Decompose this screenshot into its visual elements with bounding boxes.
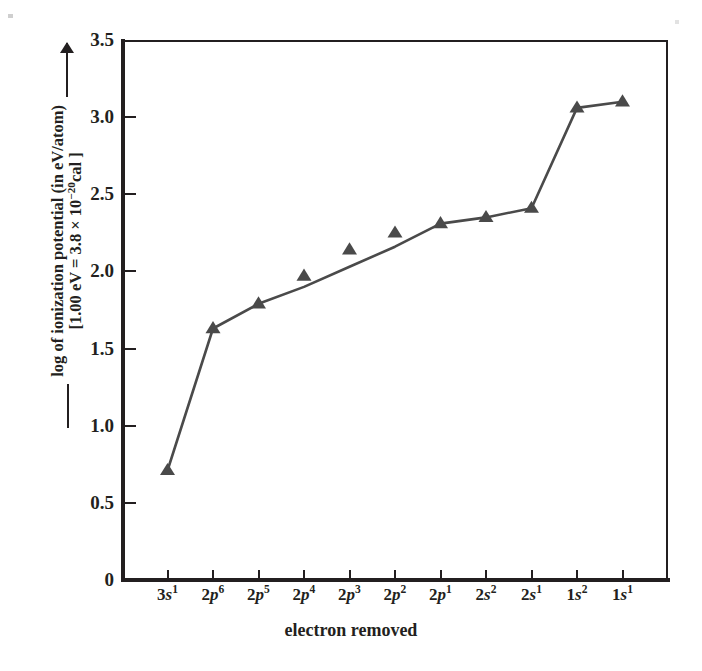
chart-figure: log of ionization potential (in eV/atom)… (0, 0, 702, 671)
series-markers (160, 94, 630, 475)
data-point-marker (342, 242, 357, 254)
series-line (168, 102, 623, 471)
data-point-marker (388, 225, 403, 237)
x-axis-title: electron removed (0, 620, 702, 641)
data-point-marker (524, 201, 539, 213)
data-series (0, 0, 702, 671)
scan-artifact (675, 20, 679, 24)
data-point-marker (160, 463, 175, 475)
scan-artifact (8, 14, 13, 18)
data-point-marker (615, 94, 630, 106)
data-point-marker (297, 269, 312, 281)
